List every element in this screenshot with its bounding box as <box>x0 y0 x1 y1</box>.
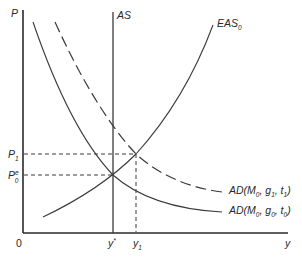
as-label: AS <box>116 9 131 21</box>
ad1-label: AD(M0, g1, t1) <box>228 184 291 198</box>
as-ad-diagram: P y 0 AS EAS0 AD(M0, g1, t1) AD(M0, g0, … <box>0 0 302 257</box>
y1-label: y1 <box>132 237 142 251</box>
p0-label: Pe0 <box>8 169 19 184</box>
ad1-curve <box>55 22 222 192</box>
ad0-curve <box>33 22 222 212</box>
ad0-label: AD(M0, g0, t0) <box>228 204 291 218</box>
x-axis-label: y <box>284 237 291 249</box>
ystar-label: y* <box>107 237 116 249</box>
p1-label: P1 <box>8 148 19 162</box>
y-axis-label: P <box>11 7 18 19</box>
eas-label: EAS0 <box>217 17 242 31</box>
eas-curve <box>43 25 213 217</box>
origin-label: 0 <box>16 237 22 249</box>
